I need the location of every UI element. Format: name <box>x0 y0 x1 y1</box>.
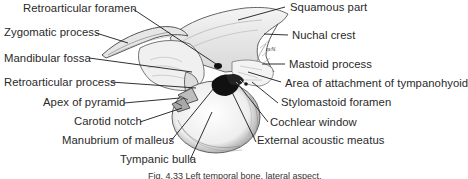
label-carotid-notch: Carotid notch <box>74 115 142 128</box>
label-retroarticular-foramen: Retroarticular foramen <box>23 2 136 15</box>
label-mandibular-fossa: Mandibular fossa <box>4 52 91 65</box>
label-zygomatic-process: Zygomatic process <box>4 26 100 39</box>
label-apex-of-pyramid: Apex of pyramid <box>43 96 125 109</box>
label-squamous-part: Squamous part <box>290 1 367 14</box>
figure-caption: Fig. 4.33 Left temporal bone, lateral as… <box>148 170 322 179</box>
label-mastoid-process: Mastoid process <box>289 58 372 71</box>
label-external-acoustic-meatus: External acoustic meatus <box>257 134 384 147</box>
label-area-of-attachment-of-tympanohyoid: Area of attachment of tympanohyoid <box>285 77 468 90</box>
label-tympanic-bulla: Tympanic bulla <box>120 153 196 166</box>
label-cochlear-window: Cochlear window <box>270 116 357 129</box>
label-stylomastoid-foramen: Stylomastoid foramen <box>281 96 391 109</box>
label-nuchal-crest: Nuchal crest <box>292 29 355 42</box>
label-retroarticular-process: Retroarticular process <box>4 76 116 89</box>
label-manubrium-of-malleus: Manubrium of malleus <box>62 134 174 147</box>
artist-signature: m.N. <box>266 46 277 52</box>
